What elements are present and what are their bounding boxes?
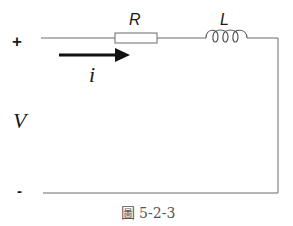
current-arrow: i: [59, 48, 130, 87]
rl-circuit-diagram: + R L i V - 圖 5-2-3: [0, 0, 293, 226]
inductor: L: [206, 11, 247, 42]
resistor-body: [115, 33, 157, 43]
inductor-label: L: [220, 11, 229, 28]
resistor: R: [115, 11, 157, 43]
resistor-label: R: [129, 11, 141, 28]
current-arrow-head: [115, 48, 130, 62]
figure-caption: 圖 5-2-3: [121, 205, 176, 221]
inductor-coil: [206, 30, 247, 42]
current-label: i: [89, 62, 95, 87]
voltage-label: V: [13, 108, 29, 133]
negative-terminal-label: -: [17, 182, 22, 199]
positive-terminal-label: +: [12, 32, 22, 51]
